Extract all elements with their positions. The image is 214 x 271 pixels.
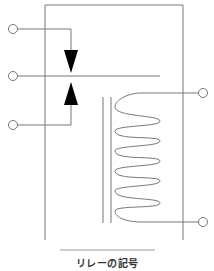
contact-triangle-down — [64, 50, 78, 73]
coil — [115, 93, 203, 222]
contact-triangle-up — [64, 82, 78, 105]
outer-frame — [45, 5, 183, 240]
coil-terminal-bottom — [199, 218, 208, 227]
relay-diagram — [0, 0, 214, 271]
wire-bottom — [18, 104, 72, 125]
coil-terminal-top — [199, 89, 208, 98]
terminal-bottom-left — [9, 121, 18, 130]
terminal-top-left — [9, 25, 18, 34]
terminal-middle-left — [9, 72, 18, 81]
wire-top — [18, 29, 72, 52]
diagram-caption: リレーの記号 — [0, 255, 214, 270]
